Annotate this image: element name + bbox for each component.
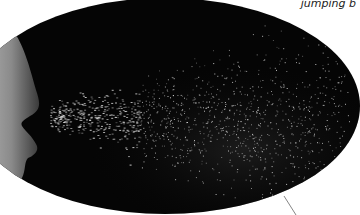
caption-text: jumping b: [301, 0, 356, 10]
